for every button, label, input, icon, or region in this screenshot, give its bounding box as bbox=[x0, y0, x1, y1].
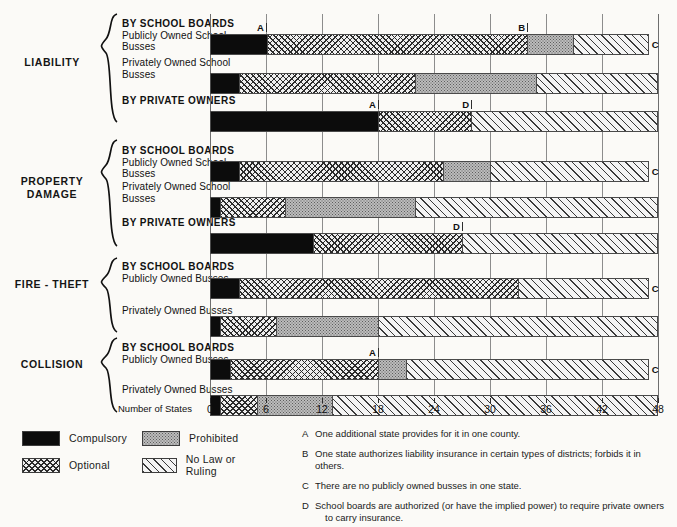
bar-segment-optional bbox=[313, 234, 462, 253]
bar-row-7 bbox=[210, 316, 658, 337]
bar-row-8 bbox=[210, 359, 649, 380]
bar-segment-compulsory bbox=[211, 198, 220, 217]
annotation-tick bbox=[462, 222, 463, 231]
bar-row-1 bbox=[210, 73, 658, 94]
axis-tick-label-30: 30 bbox=[484, 403, 496, 415]
footnote-d-key: D bbox=[302, 500, 315, 524]
group-label-collision: COLLISION bbox=[6, 358, 98, 371]
gridline-48 bbox=[658, 14, 659, 398]
legend-swatch-optional bbox=[22, 458, 60, 473]
axis-title: Number of States bbox=[118, 403, 192, 414]
footnote-b-key: B bbox=[302, 448, 315, 472]
legend-label-optional: Optional bbox=[69, 459, 110, 471]
bar-segment-compulsory bbox=[211, 112, 378, 131]
bar-segment-optional bbox=[239, 162, 443, 181]
footnote-a: A One additional state provides for it i… bbox=[302, 428, 672, 440]
bar-segment-optional bbox=[220, 198, 285, 217]
footnote-d-text: School boards are authorized (or have th… bbox=[315, 500, 672, 524]
annotation-tick bbox=[527, 23, 528, 32]
bar-segment-nolaw bbox=[378, 317, 657, 336]
x-axis: 0612182430364248 bbox=[210, 398, 658, 418]
bar-segment-compulsory bbox=[211, 279, 239, 298]
bar-segment-compulsory bbox=[211, 234, 313, 253]
bar-row-5 bbox=[210, 233, 658, 254]
axis-tick-label-6: 6 bbox=[263, 403, 269, 415]
annotation-b-row-0: B bbox=[518, 22, 525, 33]
footnote-b: B One state authorizes liability insuran… bbox=[302, 448, 672, 472]
annotation-tick bbox=[378, 348, 379, 357]
bar-row-3 bbox=[210, 161, 649, 182]
annotation-tick bbox=[471, 100, 472, 109]
bar-segment-nolaw bbox=[462, 234, 657, 253]
bar-segment-nolaw bbox=[415, 198, 657, 217]
bar-segment-compulsory bbox=[211, 162, 239, 181]
bar-row-0 bbox=[210, 34, 649, 55]
bar-segment-prohibited bbox=[285, 198, 415, 217]
group-label-property-damage: PROPERTY DAMAGE bbox=[6, 175, 98, 201]
legend-label-compulsory: Compulsory bbox=[69, 432, 127, 444]
bar-segment-nolaw bbox=[406, 360, 648, 379]
annotation-c-row-8: C bbox=[652, 364, 659, 375]
footnote-a-text: One additional state provides for it in … bbox=[315, 428, 672, 440]
legend-item-compulsory: Compulsory bbox=[22, 431, 142, 446]
brace-property-damage bbox=[100, 138, 122, 248]
legend-swatch-nolaw bbox=[142, 458, 177, 473]
bar-segment-optional bbox=[378, 112, 471, 131]
footnote-c-key: C bbox=[302, 480, 315, 492]
bar-segment-optional bbox=[239, 74, 416, 93]
legend-swatch-compulsory bbox=[22, 431, 60, 446]
axis-tick-label-18: 18 bbox=[372, 403, 384, 415]
axis-tick-label-42: 42 bbox=[596, 403, 608, 415]
footnote-d-line2: to carry insurance. bbox=[315, 512, 672, 524]
annotation-c-row-3: C bbox=[652, 166, 659, 177]
legend-item-prohibited: Prohibited bbox=[142, 431, 262, 446]
legend-item-nolaw: No Law or Ruling bbox=[142, 453, 262, 477]
bar-segment-nolaw bbox=[573, 35, 647, 54]
footnote-c: C There are no publicly owned busses in … bbox=[302, 480, 672, 492]
bar-row-6 bbox=[210, 278, 649, 299]
bar-segment-compulsory bbox=[211, 360, 230, 379]
bar-row-4 bbox=[210, 197, 658, 218]
bar-segment-prohibited bbox=[527, 35, 573, 54]
bar-segment-prohibited bbox=[378, 360, 406, 379]
axis-tick-label-12: 12 bbox=[316, 403, 328, 415]
legend-swatch-prohibited bbox=[142, 431, 180, 446]
group-label-fire-theft: FIRE - THEFT bbox=[6, 278, 98, 291]
footnotes: A One additional state provides for it i… bbox=[302, 428, 672, 527]
bar-segment-optional bbox=[230, 360, 379, 379]
annotation-a-row-0: A bbox=[257, 22, 264, 33]
bar-segment-prohibited bbox=[443, 162, 489, 181]
axis-tick-label-48: 48 bbox=[652, 403, 664, 415]
footnote-d: D School boards are authorized (or have … bbox=[302, 500, 672, 524]
bar-segment-prohibited bbox=[276, 317, 378, 336]
legend-row: Optional No Law or Ruling bbox=[22, 455, 290, 475]
bar-segment-compulsory bbox=[211, 74, 239, 93]
axis-tick-label-36: 36 bbox=[540, 403, 552, 415]
plot-area: ABCADCDCAC bbox=[210, 14, 658, 398]
bar-segment-prohibited bbox=[415, 74, 536, 93]
annotation-d-row-5: D bbox=[453, 221, 460, 232]
annotation-c-row-6: C bbox=[652, 283, 659, 294]
bar-segment-nolaw bbox=[518, 279, 648, 298]
bar-segment-nolaw bbox=[536, 74, 657, 93]
legend-item-optional: Optional bbox=[22, 458, 142, 473]
bar-segment-nolaw bbox=[490, 162, 648, 181]
annotation-a-row-2: A bbox=[369, 99, 376, 110]
bar-row-2 bbox=[210, 111, 658, 132]
brace-fire-theft bbox=[100, 256, 122, 334]
group-label-liability: LIABILITY bbox=[6, 56, 98, 69]
bar-segment-optional bbox=[220, 317, 276, 336]
legend-row: Compulsory Prohibited bbox=[22, 428, 290, 448]
annotation-tick bbox=[378, 100, 379, 109]
axis-tick-label-24: 24 bbox=[428, 403, 440, 415]
footnote-c-text: There are no publicly owned busses in on… bbox=[315, 480, 672, 492]
annotation-tick bbox=[266, 23, 267, 32]
legend: Compulsory Prohibited Optional No Law or… bbox=[22, 428, 290, 482]
bar-segment-nolaw bbox=[471, 112, 657, 131]
annotation-a-row-8: A bbox=[369, 347, 376, 358]
bar-segment-optional bbox=[267, 35, 527, 54]
legend-label-prohibited: Prohibited bbox=[189, 432, 238, 444]
brace-liability bbox=[100, 12, 122, 124]
chart-canvas: LIABILITY PROPERTY DAMAGE FIRE - THEFT C… bbox=[0, 0, 677, 420]
footnote-d-line1: School boards are authorized (or have th… bbox=[315, 500, 664, 511]
